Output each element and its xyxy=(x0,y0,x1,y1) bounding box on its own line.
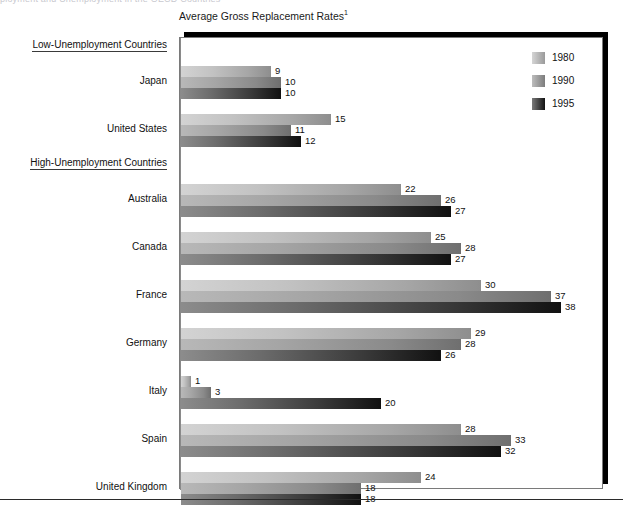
bar-value-label: 28 xyxy=(462,338,476,350)
bar-united-states-1990 xyxy=(181,125,291,136)
bar-france-1995 xyxy=(181,302,561,313)
bar-value-label: 12 xyxy=(302,135,316,147)
bar-japan-1995 xyxy=(181,88,281,99)
bar-value-label: 20 xyxy=(382,397,396,409)
bar-value-label: 9 xyxy=(272,65,280,77)
legend-item-1990: 1990 xyxy=(532,71,602,91)
bar-australia-1995 xyxy=(181,206,451,217)
bar-value-label: 38 xyxy=(562,301,576,313)
bar-value-label: 30 xyxy=(482,279,496,291)
bar-italy-1980 xyxy=(181,376,191,387)
bar-france-1980 xyxy=(181,280,481,291)
category-label-australia: Australia xyxy=(128,193,167,204)
bar-germany-1995 xyxy=(181,350,441,361)
category-label-italy: Italy xyxy=(149,385,167,396)
bar-united-kingdom-1990 xyxy=(181,483,361,494)
legend-label-1995: 1995 xyxy=(552,98,574,110)
legend-item-1995: 1995 xyxy=(532,94,602,114)
bar-value-label: 25 xyxy=(432,231,446,243)
chart-title: Average Gross Replacement Rates1 xyxy=(179,9,348,22)
legend-label-1990: 1990 xyxy=(552,75,574,87)
bar-value-label: 24 xyxy=(422,471,436,483)
footer-divider xyxy=(0,499,623,500)
bar-value-label: 3 xyxy=(212,386,220,398)
plot-frame: 198019901995 910101511122226272528273037… xyxy=(179,37,603,489)
bar-italy-1995 xyxy=(181,398,381,409)
bar-spain-1990 xyxy=(181,435,511,446)
category-label-france: France xyxy=(136,289,167,300)
group-header-low-unemployment: Low-Unemployment Countries xyxy=(32,39,167,52)
bar-canada-1990 xyxy=(181,243,461,254)
bar-canada-1980 xyxy=(181,232,431,243)
chart-title-footnote-marker: 1 xyxy=(344,9,348,16)
bar-spain-1980 xyxy=(181,424,461,435)
bar-value-label: 32 xyxy=(502,445,516,457)
category-label-column: Low-Unemployment CountriesJapanUnited St… xyxy=(0,0,179,506)
bar-australia-1980 xyxy=(181,184,401,195)
bar-value-label: 15 xyxy=(332,113,346,125)
bar-value-label: 27 xyxy=(452,253,466,265)
group-header-high-unemployment: High-Unemployment Countries xyxy=(30,157,167,170)
bar-value-label: 22 xyxy=(402,183,416,195)
bar-germany-1980 xyxy=(181,328,471,339)
legend-swatch-1995 xyxy=(532,98,545,110)
category-label-canada: Canada xyxy=(132,241,167,252)
bar-value-label: 26 xyxy=(442,349,456,361)
category-label-united-kingdom: United Kingdom xyxy=(96,481,167,492)
bar-germany-1990 xyxy=(181,339,461,350)
bar-value-label: 10 xyxy=(282,87,296,99)
category-label-united-states: United States xyxy=(107,123,167,134)
category-label-germany: Germany xyxy=(126,337,167,348)
bar-france-1990 xyxy=(181,291,551,302)
bar-united-states-1980 xyxy=(181,114,331,125)
legend-item-1980: 1980 xyxy=(532,48,602,68)
bar-value-label: 28 xyxy=(462,423,476,435)
bar-japan-1980 xyxy=(181,66,271,77)
chart-title-text: Average Gross Replacement Rates xyxy=(179,10,344,22)
bar-spain-1995 xyxy=(181,446,501,457)
category-label-japan: Japan xyxy=(140,75,167,86)
legend-swatch-1990 xyxy=(532,75,545,87)
legend-swatch-1980 xyxy=(532,52,545,64)
bar-japan-1990 xyxy=(181,77,281,88)
bar-value-label: 27 xyxy=(452,205,466,217)
bar-australia-1990 xyxy=(181,195,441,206)
bar-canada-1995 xyxy=(181,254,451,265)
bar-value-label: 1 xyxy=(192,375,200,387)
category-label-spain: Spain xyxy=(141,433,167,444)
legend-label-1980: 1980 xyxy=(552,52,574,64)
bar-united-states-1995 xyxy=(181,136,301,147)
bar-italy-1990 xyxy=(181,387,211,398)
chart-legend: 198019901995 xyxy=(532,48,602,117)
bar-united-kingdom-1980 xyxy=(181,472,421,483)
